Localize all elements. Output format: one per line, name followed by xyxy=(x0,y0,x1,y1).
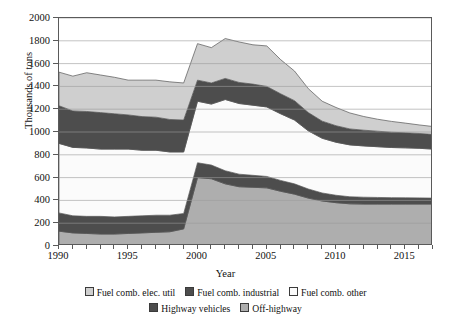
y-tick-label: 0 xyxy=(0,240,50,251)
y-tick-label: 1000 xyxy=(0,126,50,137)
legend-swatch-icon xyxy=(289,287,298,296)
x-tick-label: 2015 xyxy=(382,250,426,261)
x-tick-mark xyxy=(141,245,142,249)
x-tick-mark xyxy=(404,245,405,249)
x-tick-mark xyxy=(113,245,114,249)
y-tick-label: 400 xyxy=(0,194,50,205)
legend-swatch-icon xyxy=(185,287,194,296)
x-tick-mark xyxy=(100,245,101,249)
x-tick-label: 2010 xyxy=(313,250,357,261)
legend-label: Fuel comb. industrial xyxy=(197,287,279,298)
x-tick-mark xyxy=(280,245,281,249)
x-tick-mark xyxy=(169,245,170,249)
legend-item[interactable]: Fuel comb. industrial xyxy=(185,285,279,300)
legend-row-2: Highway vehiclesOff-highway xyxy=(0,300,451,315)
legend-swatch-icon xyxy=(240,303,249,312)
y-tick-label: 200 xyxy=(0,217,50,228)
x-tick-mark xyxy=(183,245,184,249)
legend-label: Fuel comb. other xyxy=(301,287,366,298)
x-tick-mark xyxy=(72,245,73,249)
y-tick-label: 600 xyxy=(0,171,50,182)
x-tick-mark xyxy=(377,245,378,249)
y-tick-label: 1600 xyxy=(0,57,50,68)
x-tick-mark xyxy=(335,245,336,249)
x-tick-mark xyxy=(197,245,198,249)
legend-row-1: Fuel comb. elec. utilFuel comb. industri… xyxy=(0,285,451,300)
x-tick-label: 2005 xyxy=(244,250,288,261)
legend-swatch-icon xyxy=(85,287,94,296)
legend-item[interactable]: Off-highway xyxy=(240,301,301,316)
y-tick-label: 1200 xyxy=(0,103,50,114)
legend-label: Highway vehicles xyxy=(161,302,230,313)
legend-item[interactable]: Fuel comb. elec. util xyxy=(85,285,176,300)
x-tick-mark xyxy=(86,245,87,249)
x-tick-mark xyxy=(321,245,322,249)
legend-label: Fuel comb. elec. util xyxy=(97,287,176,298)
x-tick-label: 1995 xyxy=(105,250,149,261)
x-tick-mark xyxy=(127,245,128,249)
y-tick-label: 2000 xyxy=(0,12,50,23)
x-tick-label: 1990 xyxy=(36,250,80,261)
x-axis-title: Year xyxy=(0,268,451,279)
x-tick-mark xyxy=(432,245,433,249)
x-tick-label: 2000 xyxy=(175,250,219,261)
y-tick-label: 800 xyxy=(0,148,50,159)
x-tick-mark xyxy=(307,245,308,249)
x-tick-mark xyxy=(266,245,267,249)
x-tick-mark xyxy=(210,245,211,249)
legend-swatch-icon xyxy=(149,303,158,312)
x-tick-mark xyxy=(363,245,364,249)
x-tick-mark xyxy=(390,245,391,249)
legend-item[interactable]: Fuel comb. other xyxy=(289,285,366,300)
plot-area xyxy=(58,17,432,245)
legend-label: Off-highway xyxy=(252,302,301,313)
x-tick-mark xyxy=(238,245,239,249)
x-tick-mark xyxy=(349,245,350,249)
y-tick-label: 1800 xyxy=(0,34,50,45)
plot-svg xyxy=(59,18,432,245)
legend-item[interactable]: Highway vehicles xyxy=(149,301,230,316)
chart-legend: Fuel comb. elec. utilFuel comb. industri… xyxy=(0,285,451,315)
x-tick-mark xyxy=(293,245,294,249)
x-tick-mark xyxy=(224,245,225,249)
x-tick-mark xyxy=(58,245,59,249)
x-tick-mark xyxy=(155,245,156,249)
x-tick-mark xyxy=(418,245,419,249)
x-tick-mark xyxy=(252,245,253,249)
y-tick-label: 1400 xyxy=(0,80,50,91)
stacked-area-chart: Thousands of tons 0200400600800100012001… xyxy=(0,0,451,325)
